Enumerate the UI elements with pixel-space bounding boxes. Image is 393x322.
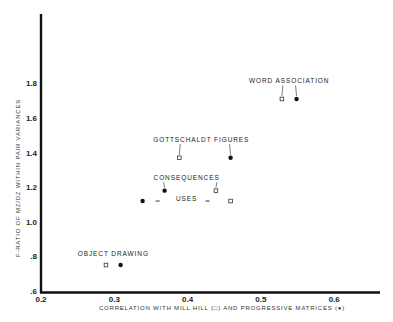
point-label: CONSEQUENCES (154, 174, 220, 182)
leader-line (216, 182, 217, 187)
progressive-matrices-point (118, 263, 122, 267)
x-tick-labels: 0.20.30.40.50.6 (35, 295, 340, 304)
point-label: USES (176, 195, 197, 202)
y-axis-title: F-RATIO OF MZ/DZ WITHIN PAIR VARIANCES (15, 99, 21, 257)
mill-hill-point (104, 263, 108, 267)
y-tick-label: 1.2 (26, 183, 38, 192)
progressive-matrices-point (140, 199, 144, 203)
mill-hill-point (214, 189, 218, 193)
x-tick-label: 0.3 (109, 295, 121, 304)
x-tick-label: 0.6 (329, 295, 341, 304)
progressive-matrices-point (294, 97, 298, 101)
point-annotations: WORD ASSOCIATIONGOTTSCHALDT FIGURESCONSE… (78, 77, 330, 257)
y-tick-labels: .6.81.01.21.41.61.8 (26, 79, 38, 296)
point-label: OBJECT DRAWING (78, 250, 149, 257)
scatter-chart: 0.20.30.40.50.6 .6.81.01.21.41.61.8 CORR… (0, 0, 393, 322)
mill-hill-point (280, 97, 284, 101)
x-tick-label: 0.2 (35, 295, 47, 304)
leader-line (282, 85, 283, 96)
leader-line (179, 144, 180, 155)
progressive-matrices-point (162, 188, 166, 192)
y-tick-label: .8 (30, 252, 37, 261)
mill-hill-point (229, 199, 233, 203)
y-tick-label: 1.4 (26, 149, 38, 158)
y-tick-label: 1.0 (26, 218, 38, 227)
x-tick-label: 0.4 (182, 295, 194, 304)
y-tick-label: .6 (30, 287, 37, 296)
point-label: WORD ASSOCIATION (249, 77, 329, 84)
progressive-matrices-point (228, 156, 232, 160)
y-tick-label: 1.8 (26, 79, 38, 88)
y-tick-label: 1.6 (26, 114, 38, 123)
x-axis-title: CORRELATION WITH MILL HILL (□) AND PROGR… (99, 305, 345, 311)
point-label: GOTTSCHALDT FIGURES (153, 136, 249, 143)
x-tick-label: 0.5 (255, 295, 267, 304)
data-points (104, 97, 299, 267)
mill-hill-point (177, 156, 181, 160)
leader-line (296, 85, 297, 96)
leader-line (230, 144, 231, 155)
leader-line (164, 182, 165, 187)
